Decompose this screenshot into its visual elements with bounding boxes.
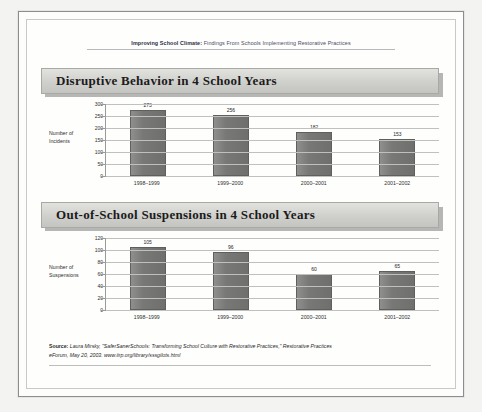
- bar: [130, 247, 166, 310]
- bar: [130, 110, 166, 176]
- gridline: [106, 152, 439, 153]
- gridline: [106, 286, 439, 287]
- gridline: [106, 140, 439, 141]
- chart-title-2: Out-of-School Suspensions in 4 School Ye…: [42, 207, 315, 223]
- source-label: Source:: [49, 343, 68, 349]
- y-axis-title-2: Number of Suspensions: [49, 264, 99, 280]
- gridline: [106, 298, 439, 299]
- y-axis-title-2-line1: Number of: [49, 264, 99, 272]
- x-axis-label: 2000–2001: [277, 314, 350, 320]
- x-axis-label: 1999–2000: [194, 180, 267, 186]
- running-head: Improving School Climate: Findings From …: [27, 40, 455, 46]
- chart-title-banner-1: Disruptive Behavior in 4 School Years: [41, 68, 439, 94]
- x-axis-label: 2000–2001: [277, 180, 350, 186]
- y-axis-tick-mark: [101, 250, 106, 251]
- gridline: [106, 176, 439, 177]
- y-axis-tick-mark: [101, 274, 106, 275]
- y-axis-tick-mark: [101, 286, 106, 287]
- running-head-rule: [87, 49, 395, 50]
- plot-grid-1: 273256182153 050100150200250300: [105, 104, 439, 177]
- chart-block-suspensions: Out-of-School Suspensions in 4 School Ye…: [27, 202, 455, 326]
- gridline: [106, 262, 439, 263]
- gridline: [106, 310, 439, 311]
- x-axis-label: 1999–2000: [194, 314, 267, 320]
- x-axis-label: 1998–1999: [110, 314, 183, 320]
- y-axis-tick-mark: [101, 140, 106, 141]
- chart-title-banner-2: Out-of-School Suspensions in 4 School Ye…: [41, 202, 439, 228]
- y-axis-tick-mark: [101, 298, 106, 299]
- bar: [213, 115, 249, 176]
- bar: [379, 139, 415, 176]
- page-inner-border: Improving School Climate: Findings From …: [26, 19, 456, 389]
- document-page: Improving School Climate: Findings From …: [18, 11, 464, 397]
- bar-value-label: 65: [395, 263, 401, 269]
- bar-value-label: 256: [227, 107, 235, 113]
- source-citation: Source: Laura Mirsky, "SaferSanerSchools…: [49, 342, 431, 360]
- y-axis-title-1: Number of Incidents: [49, 130, 99, 146]
- chart-title-banner-wrap-2: Out-of-School Suspensions in 4 School Ye…: [41, 202, 439, 228]
- x-axis-labels-1: 1998–19991999–20002000–20012001–2002: [105, 180, 439, 186]
- bar-value-label: 60: [311, 266, 317, 272]
- bar-value-label: 153: [393, 131, 401, 137]
- source-rule: [49, 365, 431, 366]
- y-axis-title-1-line1: Number of: [49, 130, 99, 138]
- y-axis-tick-mark: [101, 238, 106, 239]
- y-axis-title-2-line2: Suspensions: [49, 272, 99, 280]
- y-axis-tick-mark: [101, 262, 106, 263]
- plot-area-1: Number of Incidents 273256182153 0501001…: [27, 100, 455, 192]
- gridline: [106, 274, 439, 275]
- y-axis-tick-mark: [101, 128, 106, 129]
- x-axis-label: 2001–2002: [361, 180, 434, 186]
- x-axis-label: 1998–1999: [110, 180, 183, 186]
- plot-area-2: Number of Suspensions 105966065 02040608…: [27, 234, 455, 326]
- bar-value-label: 105: [143, 239, 151, 245]
- chart-title-banner-wrap-1: Disruptive Behavior in 4 School Years: [41, 68, 439, 94]
- x-axis-labels-2: 1998–19991999–20002000–20012001–2002: [105, 314, 439, 320]
- y-axis-tick-mark: [101, 152, 106, 153]
- gridline: [106, 128, 439, 129]
- x-axis-label: 2001–2002: [361, 314, 434, 320]
- running-head-rest: Findings From Schools Implementing Resto…: [202, 40, 351, 46]
- y-axis-tick-mark: [101, 310, 106, 311]
- plot-grid-2: 105966065 020406080100120: [105, 238, 439, 311]
- y-axis-tick-mark: [101, 176, 106, 177]
- chart-block-disruptive-behavior: Disruptive Behavior in 4 School Years Nu…: [27, 68, 455, 192]
- gridline: [106, 116, 439, 117]
- y-axis-tick-mark: [101, 164, 106, 165]
- gridline: [106, 238, 439, 239]
- gridline: [106, 164, 439, 165]
- bar: [296, 274, 332, 310]
- chart-title-1: Disruptive Behavior in 4 School Years: [42, 73, 277, 89]
- source-line1: Laura Mirsky, "SaferSanerSchools: Transf…: [68, 343, 332, 349]
- bar: [379, 271, 415, 310]
- y-axis-tick-mark: [101, 104, 106, 105]
- gridline: [106, 104, 439, 105]
- y-axis-title-1-line2: Incidents: [49, 138, 99, 146]
- running-head-bold: Improving School Climate:: [131, 40, 202, 46]
- y-axis-tick-mark: [101, 116, 106, 117]
- bar: [296, 132, 332, 176]
- source-line2: eForum, May 20, 2003. www.iirp.org/libra…: [49, 351, 431, 360]
- gridline: [106, 250, 439, 251]
